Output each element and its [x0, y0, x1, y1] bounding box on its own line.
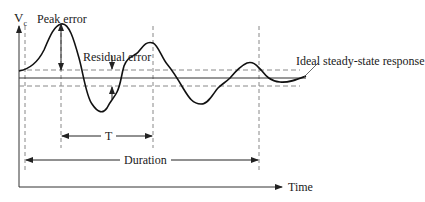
ideal-response-label: Ideal steady-state response [296, 55, 425, 67]
period-label: T [101, 130, 116, 142]
duration-label: Duration [120, 154, 171, 166]
x-axis-label: Time [288, 181, 313, 193]
y-axis-label: Vc [14, 11, 27, 28]
residual-error-label: Residual error [83, 51, 151, 63]
peak-error-label: Peak error [37, 13, 87, 25]
response-curve [19, 24, 306, 112]
